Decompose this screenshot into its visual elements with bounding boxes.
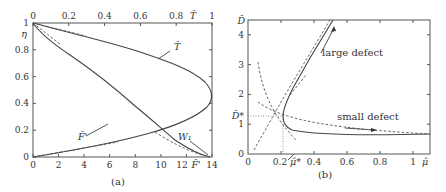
tick-label: 0 [30, 160, 36, 170]
tick-label: 0.6 [340, 157, 355, 167]
tick-label: 0.2 [15, 125, 29, 135]
panel-b-y-ticks: 0 1 2 3 4 D̂ [236, 15, 430, 159]
tick-label: 0.8 [169, 11, 184, 21]
tick-label: 14 [206, 160, 218, 170]
annotation-large-defect: large defect [322, 47, 383, 58]
x-top-axis-label: T̂ [190, 10, 197, 21]
tick-label: 1 [410, 157, 416, 167]
tick-label: 0.8 [373, 157, 388, 167]
panel-a: 0 2 4 6 8 10 12 14 F̂' 0 0.2 0.4 0.6 0.8… [15, 10, 218, 187]
panel-a-caption: (a) [111, 176, 125, 187]
annotation-W1: W₁ [178, 131, 192, 142]
tick-label: 2 [238, 89, 244, 99]
y-axis-label: η [21, 28, 27, 39]
x-axis-label: μ̂ [422, 156, 428, 167]
tick-label: 1 [23, 18, 29, 28]
annotation-mu-star: μ̂* [290, 156, 301, 167]
annotation-F: F̂' [77, 131, 87, 142]
asymptote-cross [290, 75, 306, 95]
tick-label: 0 [30, 11, 36, 21]
asymptote-diag [258, 62, 296, 140]
tick-label: 1 [209, 11, 215, 21]
tick-label: 0.4 [307, 157, 322, 167]
tick-label: 0 [238, 149, 244, 159]
tick-label: 0.4 [97, 11, 112, 21]
tick-label: 0.4 [15, 98, 30, 108]
tick-label: 0.8 [15, 45, 30, 55]
annotation-T: T̂ [174, 41, 181, 52]
tick-label: 2 [56, 160, 62, 170]
tick-label: 4 [81, 160, 87, 170]
arrow-T [158, 51, 170, 59]
annotation-D-star: D̂* [231, 110, 245, 121]
arrow-F [86, 124, 108, 136]
tick-label: 0.2 [62, 11, 76, 21]
tick-label: 10 [155, 160, 167, 170]
annotation-small-defect: small defect [337, 111, 399, 122]
arrowhead-large [331, 26, 336, 32]
tick-label: 0 [23, 152, 29, 162]
tick-label: 0.2 [273, 157, 287, 167]
panel-b-x-ticks: 0 0.2 0.4 0.6 0.8 1 μ̂ [245, 20, 428, 167]
arrowhead-small [371, 128, 377, 132]
tick-label: 12 [176, 160, 187, 170]
panel-b: 0 0.2 0.4 0.6 0.8 1 μ̂ 0 1 2 3 4 D̂ [231, 15, 430, 180]
panel-b-caption: (b) [318, 169, 332, 180]
figure: 0 2 4 6 8 10 12 14 F̂' 0 0.2 0.4 0.6 0.8… [0, 0, 446, 192]
tick-label: 0.6 [133, 11, 148, 21]
tick-label: 6 [107, 160, 113, 170]
y-axis-label: D̂ [236, 15, 245, 26]
tick-label: 0 [245, 157, 251, 167]
tick-label: 4 [238, 30, 244, 40]
panel-a-top-ticks: 0 0.2 0.4 0.6 0.8 1 T̂ [30, 10, 215, 26]
panel-a-bottom-ticks: 0 2 4 6 8 10 12 14 F̂' [30, 154, 218, 170]
tick-label: 0.6 [15, 72, 30, 82]
x-bottom-axis-label: F̂' [190, 159, 200, 170]
tick-label: 3 [238, 60, 244, 70]
tick-label: 8 [132, 160, 138, 170]
